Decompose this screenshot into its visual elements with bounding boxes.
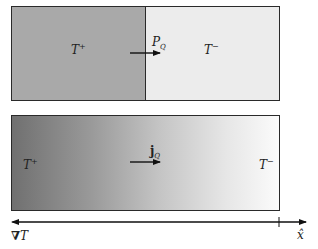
gradient-axis-arrow-icon <box>12 217 306 227</box>
grad-t-label: ∇T <box>11 230 28 242</box>
arrows-overlay <box>0 0 318 249</box>
x-hat-label: x̂ <box>297 229 304 241</box>
